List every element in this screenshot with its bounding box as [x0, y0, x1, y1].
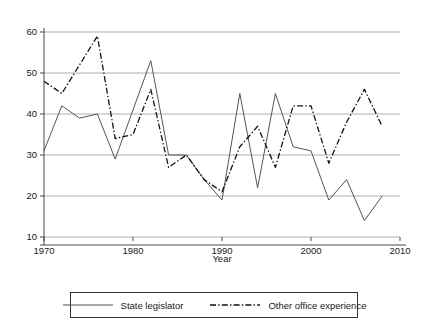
- y-axis-ticks-group: 102030405060: [26, 26, 44, 242]
- x-axis-title: Year: [212, 253, 231, 264]
- chart-figure: 102030405060 19701980199020002010 Year S…: [0, 0, 427, 330]
- y-tick-label: 20: [26, 190, 37, 201]
- gridlines-group: [44, 32, 400, 237]
- legend-item-state-legislator[interactable]: State legislator: [62, 300, 184, 311]
- chart-legend: State legislator Other office experience: [70, 292, 358, 318]
- legend-label-other-office-experience: Other office experience: [268, 300, 366, 311]
- legend-item-other-office-experience[interactable]: Other office experience: [209, 300, 366, 311]
- x-tick-label: 2000: [300, 245, 321, 256]
- plot-area: 102030405060 19701980199020002010 Year: [0, 0, 427, 268]
- y-tick-label: 30: [26, 149, 37, 160]
- legend-label-state-legislator: State legislator: [121, 300, 184, 311]
- y-tick-label: 50: [26, 67, 37, 78]
- x-tick-label: 2010: [389, 245, 410, 256]
- y-tick-label: 60: [26, 26, 37, 37]
- x-tick-label: 1980: [122, 245, 143, 256]
- series-line-state-legislator: [44, 61, 382, 221]
- y-tick-label: 40: [26, 108, 37, 119]
- y-tick-label: 10: [26, 231, 37, 242]
- x-tick-label: 1970: [33, 245, 54, 256]
- legend-swatch-dashdot-icon: [209, 300, 261, 310]
- line-chart-svg: 102030405060 19701980199020002010 Year: [0, 0, 427, 268]
- legend-swatch-solid-icon: [62, 300, 114, 310]
